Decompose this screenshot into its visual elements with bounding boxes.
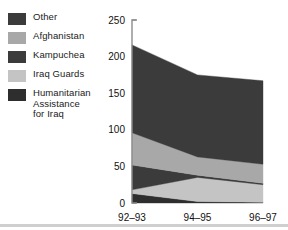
y-tick-label-100: 100 xyxy=(108,124,125,135)
legend-item-other: Other xyxy=(8,12,104,25)
legend-label-kampuchea: Kampuchea xyxy=(33,50,85,61)
legend-item-kampuchea: Kampuchea xyxy=(8,50,104,63)
stacked-area-chart-figure: Other Afghanistan Kampuchea Iraq Guards … xyxy=(0,0,288,230)
legend-swatch-iraq-guards xyxy=(8,70,26,82)
legend-label-other: Other xyxy=(33,12,57,23)
legend-swatch-afghanistan xyxy=(8,32,26,44)
x-tick-label-1: 94–95 xyxy=(184,212,212,223)
legend-swatch-kampuchea xyxy=(8,51,26,63)
legend-item-iraq-guards: Iraq Guards xyxy=(8,69,104,82)
stacked-area-bands xyxy=(132,45,263,203)
legend-label-afghanistan: Afghanistan xyxy=(33,31,84,42)
x-tick-label-0: 92–93 xyxy=(118,212,146,223)
y-tick-label-0: 0 xyxy=(119,198,125,209)
y-tick-label-250: 250 xyxy=(108,15,125,26)
chart-plot-area: 050100150200250 92–9394–9596–97 xyxy=(96,10,288,230)
legend-swatch-humanitarian-assistance-for-iraq xyxy=(8,89,26,101)
legend-item-afghanistan: Afghanistan xyxy=(8,31,104,44)
y-tick-label-50: 50 xyxy=(114,161,126,172)
chart-legend: Other Afghanistan Kampuchea Iraq Guards … xyxy=(8,12,104,126)
x-axis-tick-labels: 92–9394–9596–97 xyxy=(118,212,277,223)
legend-label-iraq-guards: Iraq Guards xyxy=(33,69,84,80)
chart-canvas: 050100150200250 92–9394–9596–97 xyxy=(96,10,288,230)
y-tick-label-150: 150 xyxy=(108,88,125,99)
y-tick-label-200: 200 xyxy=(108,51,125,62)
footer-rule xyxy=(0,224,288,227)
y-axis-tick-labels: 050100150200250 xyxy=(108,15,125,209)
legend-swatch-other xyxy=(8,13,26,25)
legend-label-humanitarian-assistance-for-iraq: Humanitarian Assistance for Iraq xyxy=(33,88,91,120)
legend-item-humanitarian-assistance-for-iraq: Humanitarian Assistance for Iraq xyxy=(8,88,104,120)
x-tick-label-2: 96–97 xyxy=(249,212,277,223)
